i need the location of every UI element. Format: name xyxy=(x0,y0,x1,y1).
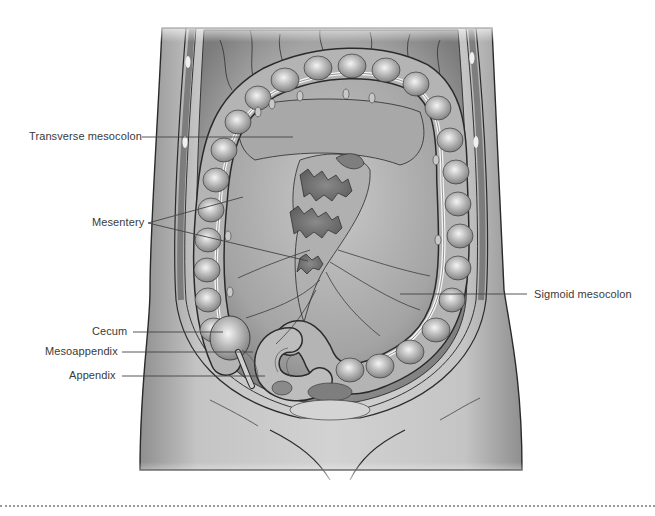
label-transverse-mesocolon: Transverse mesocolon xyxy=(29,130,142,143)
anatomy-figure: Transverse mesocolon Mesentery Sigmoid m… xyxy=(0,0,655,516)
label-sigmoid-mesocolon: Sigmoid mesocolon xyxy=(534,288,632,301)
label-mesentery: Mesentery xyxy=(92,216,144,229)
abdomen-illustration xyxy=(0,0,655,516)
label-mesoappendix: Mesoappendix xyxy=(45,345,118,358)
label-cecum: Cecum xyxy=(92,325,127,338)
dotted-divider xyxy=(0,505,655,507)
label-appendix: Appendix xyxy=(69,369,116,382)
